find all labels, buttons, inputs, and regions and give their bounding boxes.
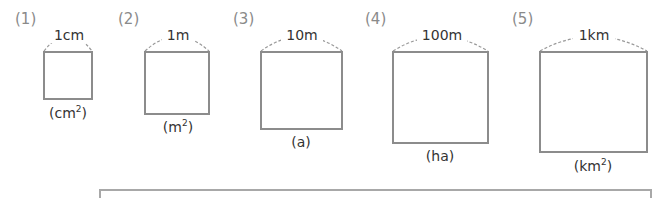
square: [539, 51, 648, 153]
side-length-label: 1cm: [50, 27, 88, 43]
problem-number: (4): [365, 10, 386, 28]
square: [260, 51, 343, 130]
side-length-label: 10m: [281, 27, 323, 43]
unit-label: (m2): [150, 118, 206, 135]
square: [392, 51, 489, 144]
unit-label: (km2): [563, 157, 623, 174]
problem-number: (3): [233, 10, 254, 28]
side-length-label: 1m: [162, 27, 194, 43]
square: [43, 51, 93, 100]
unit-label: (cm2): [40, 104, 96, 121]
problem-number: (5): [512, 10, 533, 28]
unit-label: (ha): [412, 147, 468, 164]
answer-box: [99, 189, 652, 198]
problem-number: (2): [118, 10, 139, 28]
problem-number: (1): [15, 10, 36, 28]
square: [144, 51, 210, 115]
unit-label: (a): [276, 133, 326, 150]
side-length-label: 1km: [573, 27, 615, 43]
side-length-label: 100m: [417, 27, 467, 43]
